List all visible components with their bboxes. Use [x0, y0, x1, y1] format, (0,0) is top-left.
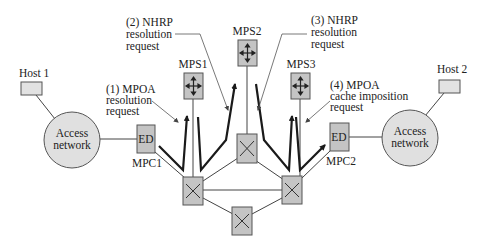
mpc2-box-label: ED	[331, 131, 346, 143]
annotation-step2: (2) NHRP resolution request	[126, 16, 173, 53]
annotation-step3: (3) NHRP resolution request	[311, 14, 358, 51]
link-host1-access	[36, 95, 55, 119]
step2-line3: request	[126, 40, 160, 53]
host2-icon	[439, 80, 460, 93]
host1[interactable]: Host 1	[19, 67, 50, 95]
switch-right[interactable]	[282, 176, 302, 204]
access-network-right[interactable]: Access network	[382, 110, 438, 166]
mpc1-edge-device[interactable]: ED MPC1	[132, 125, 162, 169]
switch-left[interactable]	[183, 177, 203, 205]
mps1-label: MPS1	[179, 58, 208, 70]
switch-bottom[interactable]	[232, 207, 252, 235]
leader-step4	[306, 101, 330, 122]
flow-nhrp-mps2-mps3	[256, 84, 292, 170]
access-network-left-label-2: network	[53, 139, 91, 151]
step3-line3: request	[311, 38, 345, 51]
flow-nhrp-mps1-mps2	[198, 84, 235, 170]
host1-label: Host 1	[19, 67, 50, 79]
step1-line3: request	[106, 105, 140, 118]
step4-line3: request	[330, 101, 364, 114]
annotation-step4: (4) MPOA cache imposition request	[330, 79, 408, 114]
annotation-step1: (1) MPOA resolution request	[106, 83, 156, 118]
mps3-label: MPS3	[287, 58, 316, 70]
mpc2-edge-device[interactable]: ED MPC2	[326, 123, 356, 167]
host1-icon	[21, 82, 42, 95]
leader-step1	[152, 101, 178, 122]
mps2-server[interactable]: MPS2	[233, 25, 262, 66]
link-switch-right-bottom	[252, 198, 282, 214]
switch-center-top[interactable]	[237, 134, 257, 163]
access-network-right-label-1: Access	[394, 125, 427, 137]
mpc2-label: MPC2	[326, 155, 356, 167]
host2[interactable]: Host 2	[437, 63, 468, 93]
flow-mpoa-resolution-request	[159, 116, 187, 170]
step2-line2: resolution	[126, 28, 172, 40]
access-network-left-label-1: Access	[56, 127, 89, 139]
step3-line2: resolution	[311, 26, 357, 38]
access-network-left[interactable]: Access network	[44, 112, 100, 168]
mpc1-label: MPC1	[132, 157, 162, 169]
link-host2-access	[425, 93, 444, 116]
access-network-right-label-2: network	[391, 137, 429, 149]
mps1-server[interactable]: MPS1	[179, 58, 208, 99]
mpoa-diagram: Host 1 Host 2 Access network Access netw…	[0, 0, 479, 249]
mpc1-box-label: ED	[138, 133, 153, 145]
mps2-label: MPS2	[233, 25, 262, 37]
mps3-server[interactable]: MPS3	[287, 58, 316, 99]
host2-label: Host 2	[437, 63, 468, 75]
link-switch-left-bottom	[203, 198, 233, 214]
